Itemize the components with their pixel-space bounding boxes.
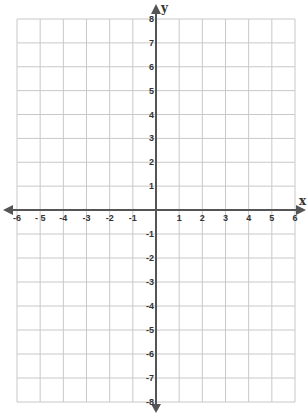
x-axis-left-arrow-icon xyxy=(3,205,13,215)
x-tick-label: 2 xyxy=(200,213,205,223)
x-tick-label: -3 xyxy=(82,213,90,223)
y-axis-up-arrow-icon xyxy=(151,4,161,14)
x-tick-label: 4 xyxy=(246,213,251,223)
y-tick-label: 6 xyxy=(149,62,154,72)
y-tick-label: 4 xyxy=(149,110,154,120)
x-tick-label: 5 xyxy=(269,213,274,223)
x-tick-label: - 5 xyxy=(35,213,46,223)
y-tick-label: 3 xyxy=(149,133,154,143)
y-tick-label: -7 xyxy=(146,373,154,383)
y-tick-label: -2 xyxy=(146,253,154,263)
x-tick-label: -4 xyxy=(59,213,67,223)
y-tick-label: 5 xyxy=(149,86,154,96)
x-tick-label: -2 xyxy=(106,213,114,223)
y-tick-label: -1 xyxy=(146,229,154,239)
y-tick-label: -4 xyxy=(146,301,154,311)
x-tick-label: 6 xyxy=(292,213,297,223)
coordinate-plane: y x -6- 5-4-3-2-1123456 87654321-1-2-3-4… xyxy=(0,0,307,413)
y-tick-label: -5 xyxy=(146,325,154,335)
x-tick-label: 3 xyxy=(223,213,228,223)
y-tick-label: 7 xyxy=(149,38,154,48)
y-axis-label: y xyxy=(160,1,169,15)
x-tick-label: -1 xyxy=(129,213,137,223)
x-axis-label: x xyxy=(299,194,307,208)
y-tick-label: 8 xyxy=(149,14,154,24)
y-tick-label: -8 xyxy=(146,397,154,407)
axes: y x xyxy=(3,1,307,413)
x-tick-label: 1 xyxy=(177,213,182,223)
x-tick-label: -6 xyxy=(13,213,21,223)
y-tick-label: 1 xyxy=(149,181,154,191)
y-tick-label: -3 xyxy=(146,277,154,287)
y-tick-label: 2 xyxy=(149,157,154,167)
y-tick-label: -6 xyxy=(146,349,154,359)
